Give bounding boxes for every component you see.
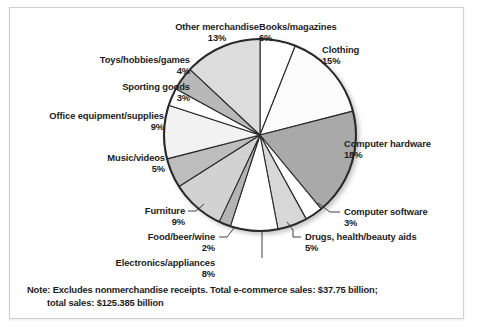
label-office-equipment-name: Office equipment/supplies: [49, 110, 164, 121]
leader-food: [219, 228, 234, 237]
label-sporting-goods-pct: 3%: [75, 92, 190, 103]
label-clothing: Clothing 15%: [322, 44, 402, 67]
label-clothing-pct: 15%: [322, 55, 402, 66]
label-computer-hardware-pct: 18%: [344, 149, 469, 160]
label-drugs-health-beauty: Drugs, health/beauty aids 5%: [305, 231, 455, 254]
label-electronics-appliances: Electronics/appliances 8%: [95, 257, 215, 280]
label-computer-software: Computer software 3%: [344, 206, 469, 229]
label-computer-hardware: Computer hardware 18%: [344, 138, 469, 161]
label-food-beer-wine-pct: 2%: [95, 242, 215, 253]
label-furniture: Furniture 9%: [95, 205, 185, 228]
chart-note-line1: Note: Excludes nonmerchandise receipts. …: [27, 284, 378, 295]
label-other-merchandise-pct: 13%: [162, 32, 272, 43]
label-drugs-health-beauty-pct: 5%: [305, 242, 455, 253]
label-food-beer-wine-name: Food/beer/wine: [148, 231, 215, 242]
label-music-videos-pct: 5%: [60, 163, 165, 174]
label-sporting-goods: Sporting goods 3%: [75, 81, 190, 104]
label-toys-hobbies-games-name: Toys/hobbies/games: [100, 54, 190, 65]
label-clothing-name: Clothing: [322, 44, 359, 55]
label-computer-software-name: Computer software: [344, 206, 428, 217]
label-drugs-health-beauty-name: Drugs, health/beauty aids: [305, 231, 417, 242]
label-office-equipment-pct: 9%: [24, 121, 164, 132]
label-music-videos: Music/videos 5%: [60, 152, 165, 175]
label-computer-hardware-name: Computer hardware: [344, 138, 431, 149]
label-other-merchandise: Other merchandise 13%: [162, 21, 272, 44]
label-food-beer-wine: Food/beer/wine 2%: [95, 231, 215, 254]
label-furniture-pct: 9%: [95, 216, 185, 227]
pie-slices-group: [164, 39, 356, 231]
label-sporting-goods-name: Sporting goods: [122, 81, 190, 92]
label-furniture-name: Furniture: [145, 205, 185, 216]
label-other-merchandise-name: Other merchandise: [175, 21, 259, 32]
chart-note-line2: total sales: $125.385 billion: [27, 297, 447, 310]
label-office-equipment: Office equipment/supplies 9%: [24, 110, 164, 133]
label-computer-software-pct: 3%: [344, 217, 469, 228]
label-music-videos-name: Music/videos: [107, 152, 165, 163]
label-books-magazines: Books/magazines 6%: [259, 21, 359, 44]
label-books-magazines-name: Books/magazines: [259, 21, 337, 32]
label-toys-hobbies-games-pct: 4%: [75, 65, 190, 76]
label-toys-hobbies-games: Toys/hobbies/games 4%: [75, 54, 190, 77]
label-books-magazines-pct: 6%: [259, 32, 359, 43]
label-electronics-appliances-name: Electronics/appliances: [116, 257, 215, 268]
chart-note: Note: Excludes nonmerchandise receipts. …: [27, 284, 447, 309]
label-electronics-appliances-pct: 8%: [95, 268, 215, 279]
